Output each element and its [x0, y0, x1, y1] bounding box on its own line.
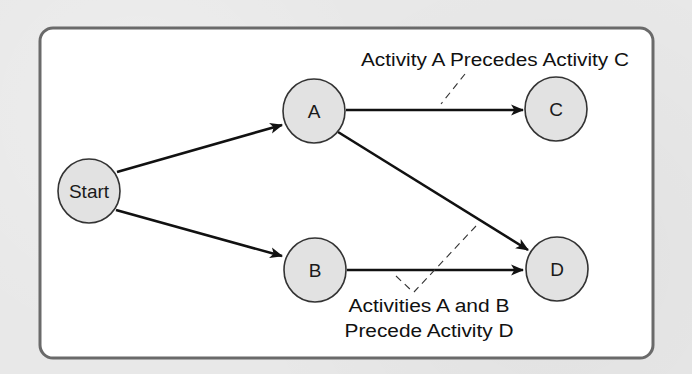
precedence-diagram: Start A B C D Activity A Precedes Activi… [0, 0, 692, 374]
annotation-a-precedes-c: Activity A Precedes Activity C [361, 50, 629, 70]
node-start: Start [58, 159, 120, 223]
annotation-ab-precede-d-line1: Activities A and B [349, 296, 510, 316]
node-a: A [283, 79, 345, 143]
diagram-canvas: Start A B C D Activity A Precedes Activi… [0, 0, 692, 374]
node-b-label: B [309, 260, 322, 281]
node-c-label: C [549, 99, 563, 120]
node-d: D [526, 237, 588, 301]
node-b: B [284, 238, 346, 302]
node-d-label: D [550, 259, 564, 280]
node-c: C [525, 77, 587, 141]
node-start-label: Start [69, 181, 110, 202]
node-a-label: A [308, 101, 321, 122]
annotation-ab-precede-d-line2: Precede Activity D [345, 321, 514, 341]
